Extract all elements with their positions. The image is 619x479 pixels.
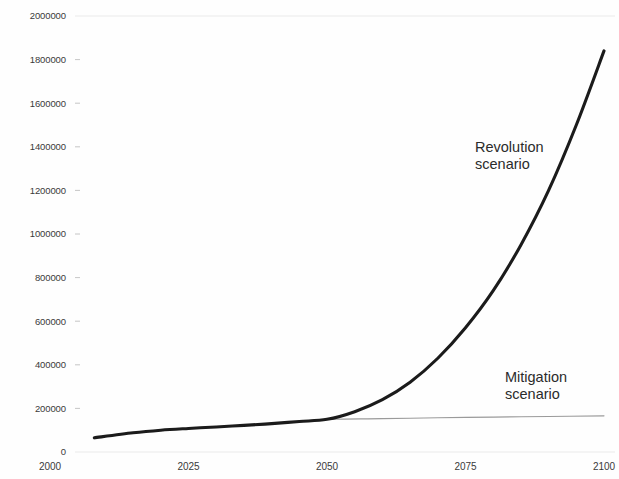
mitigation-label-line-2: scenario [505, 386, 560, 402]
y-axis-tick-label: 2000000 [30, 10, 66, 21]
revolution-label-line-2: scenario [475, 156, 530, 172]
x-axis-tick-label: 2000 [39, 461, 61, 472]
chart-container: 0200000400000600000800000100000012000001… [0, 0, 619, 479]
x-axis-tick-label: 2050 [316, 461, 338, 472]
y-axis-tick-label: 0 [61, 446, 66, 457]
y-axis-tick-label: 400000 [35, 359, 66, 370]
y-axis-tick-label: 1400000 [30, 141, 66, 152]
x-axis-tick-label: 2100 [593, 461, 615, 472]
x-axis-tick-label: 2025 [178, 461, 200, 472]
y-axis-tick-label: 600000 [35, 316, 66, 327]
y-axis-tick-label: 1000000 [30, 228, 66, 239]
mitigation-label: Mitigationscenario [505, 369, 567, 402]
y-axis-tick-label: 200000 [35, 403, 66, 414]
line-chart: 0200000400000600000800000100000012000001… [0, 0, 619, 479]
y-axis-tick-label: 1600000 [30, 98, 66, 109]
y-axis-tick-label: 800000 [35, 272, 66, 283]
x-axis-tick-label: 2075 [455, 461, 477, 472]
y-axis-tick-label: 1800000 [30, 54, 66, 65]
chart-background [0, 0, 619, 479]
revolution-label-line-1: Revolution [475, 139, 544, 155]
mitigation-label-line-1: Mitigation [505, 369, 567, 385]
y-axis-tick-label: 1200000 [30, 185, 66, 196]
